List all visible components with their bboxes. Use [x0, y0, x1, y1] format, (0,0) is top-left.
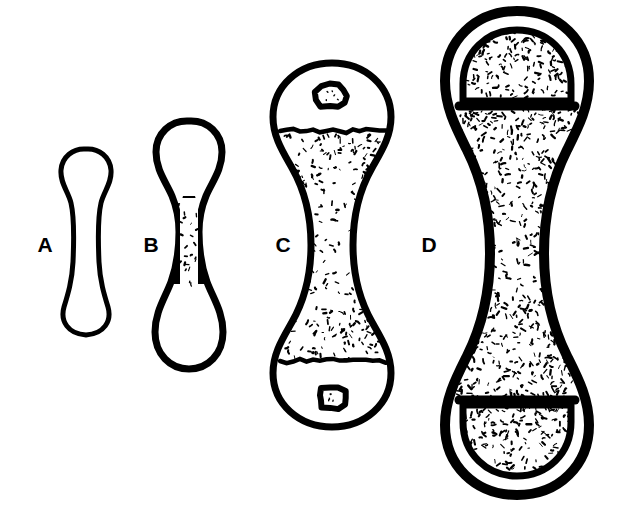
- ossification-nucleus-fleck: [327, 91, 328, 92]
- specimen-c-proximal-ossification-nucleus: [315, 84, 347, 107]
- specimen-d-proximal-epiphysis-outline: [463, 30, 571, 101]
- specimen-c-distal-ossification-nucleus: [320, 387, 346, 409]
- ossification-nucleus-ring: [320, 387, 346, 409]
- ossification-nucleus-ring: [315, 84, 347, 107]
- ossification-nucleus-fleck: [334, 95, 335, 96]
- ossification-nucleus-fleck: [338, 99, 339, 100]
- specimen-c-label: C: [275, 233, 290, 256]
- bone-development-figure: A B C: [0, 0, 622, 510]
- specimen-d-label: D: [421, 233, 436, 256]
- specimen-b-label: B: [143, 233, 158, 256]
- specimen-b-medullary-cavity: [180, 198, 198, 284]
- specimen-a-label: A: [37, 233, 52, 256]
- figure-root: A B C: [0, 0, 622, 510]
